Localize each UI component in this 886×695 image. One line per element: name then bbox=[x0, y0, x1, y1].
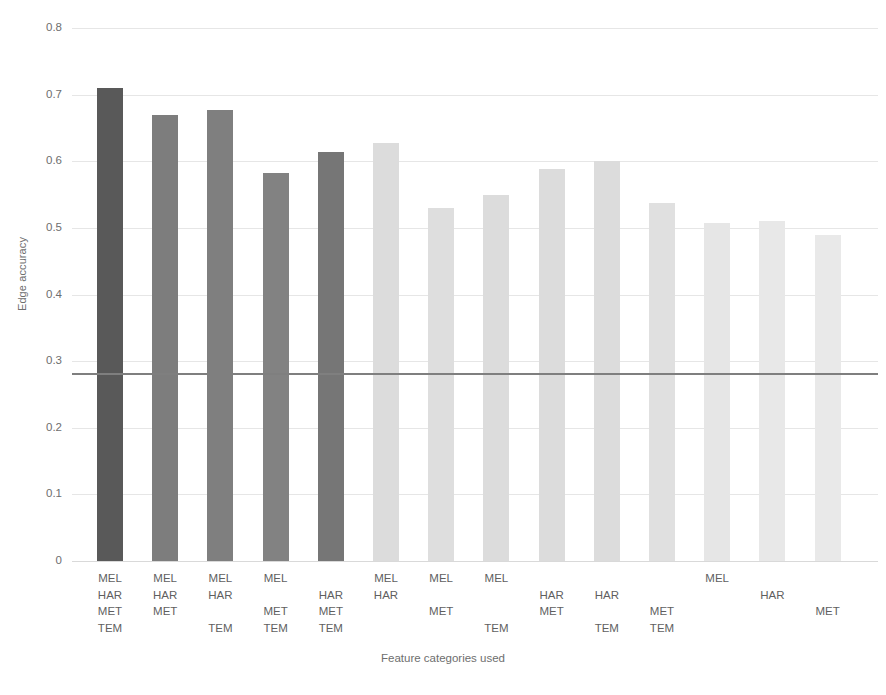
category-label: MELHARMETTEM bbox=[577, 570, 637, 636]
y-axis-tick: 0.7 bbox=[6, 89, 62, 101]
gridline bbox=[72, 428, 878, 429]
bar bbox=[759, 221, 785, 561]
category-label-row: HAR bbox=[742, 587, 802, 604]
gridline bbox=[72, 228, 878, 229]
bar bbox=[373, 143, 399, 561]
category-label: MELHARMETTEM bbox=[135, 570, 195, 636]
category-label: MELHARMETTEM bbox=[466, 570, 526, 636]
gridline bbox=[72, 28, 878, 29]
category-label-row: MEL bbox=[80, 570, 140, 587]
category-label: MELHARMETTEM bbox=[190, 570, 250, 636]
bar-chart: Edge accuracy 0.80.70.60.50.40.30.20.10 … bbox=[0, 0, 886, 695]
category-label-row: HAR bbox=[190, 587, 250, 604]
category-label-row: MEL bbox=[411, 570, 471, 587]
x-axis-title: Feature categories used bbox=[0, 652, 886, 664]
bar bbox=[318, 152, 344, 561]
category-label-row: TEM bbox=[632, 620, 692, 637]
bar bbox=[152, 115, 178, 561]
category-label: MELHARMETTEM bbox=[246, 570, 306, 636]
bar bbox=[483, 195, 509, 561]
bar bbox=[263, 173, 289, 561]
y-axis-tick: 0.5 bbox=[6, 222, 62, 234]
gridline bbox=[72, 95, 878, 96]
category-label: MELHARMETTEM bbox=[798, 570, 858, 636]
category-label-row: HAR bbox=[522, 587, 582, 604]
gridline bbox=[72, 161, 878, 162]
category-label-row: HAR bbox=[135, 587, 195, 604]
y-axis-tick: 0.8 bbox=[6, 22, 62, 34]
y-axis-tick: 0 bbox=[6, 555, 62, 567]
category-label-row: TEM bbox=[301, 620, 361, 637]
category-label-row: MEL bbox=[135, 570, 195, 587]
category-label-row: MET bbox=[798, 603, 858, 620]
gridline bbox=[72, 361, 878, 362]
category-label-row: MET bbox=[80, 603, 140, 620]
y-axis-tick: 0.6 bbox=[6, 155, 62, 167]
bar bbox=[428, 208, 454, 561]
category-label-row: TEM bbox=[246, 620, 306, 637]
gridline bbox=[72, 295, 878, 296]
category-label-row: TEM bbox=[577, 620, 637, 637]
category-label-row: HAR bbox=[577, 587, 637, 604]
category-label: MELHARMETTEM bbox=[301, 570, 361, 636]
bar bbox=[649, 203, 675, 561]
category-label-row: MEL bbox=[687, 570, 747, 587]
category-label: MELHARMETTEM bbox=[687, 570, 747, 636]
gridline bbox=[72, 494, 878, 495]
category-label-row: TEM bbox=[190, 620, 250, 637]
bar bbox=[594, 161, 620, 561]
category-label-row: MEL bbox=[356, 570, 416, 587]
y-axis-tick: 0.2 bbox=[6, 422, 62, 434]
category-label: MELHARMETTEM bbox=[632, 570, 692, 636]
bar bbox=[815, 235, 841, 561]
category-label: MELHARMETTEM bbox=[411, 570, 471, 636]
bar bbox=[97, 88, 123, 561]
category-label-row: MET bbox=[632, 603, 692, 620]
bar bbox=[539, 169, 565, 561]
category-label-row: HAR bbox=[356, 587, 416, 604]
category-label-row: HAR bbox=[301, 587, 361, 604]
category-label-row: MEL bbox=[190, 570, 250, 587]
y-axis-tick: 0.4 bbox=[6, 289, 62, 301]
category-label-row: MET bbox=[301, 603, 361, 620]
threshold-line bbox=[72, 373, 878, 375]
gridline bbox=[72, 561, 878, 562]
y-axis-tick: 0.1 bbox=[6, 488, 62, 500]
category-label-row: TEM bbox=[80, 620, 140, 637]
category-label: MELHARMETTEM bbox=[356, 570, 416, 636]
category-label: MELHARMETTEM bbox=[522, 570, 582, 636]
category-label-row: HAR bbox=[80, 587, 140, 604]
bar bbox=[207, 110, 233, 561]
plot-area bbox=[72, 28, 878, 561]
category-label-row: MET bbox=[135, 603, 195, 620]
bar bbox=[704, 223, 730, 561]
category-label-row: TEM bbox=[466, 620, 526, 637]
category-label-row: MET bbox=[246, 603, 306, 620]
category-label: MELHARMETTEM bbox=[742, 570, 802, 636]
category-label-row: MET bbox=[522, 603, 582, 620]
category-label-row: MET bbox=[411, 603, 471, 620]
category-label-row: MEL bbox=[466, 570, 526, 587]
category-label: MELHARMETTEM bbox=[80, 570, 140, 636]
category-label-row: MEL bbox=[246, 570, 306, 587]
y-axis-tick: 0.3 bbox=[6, 355, 62, 367]
